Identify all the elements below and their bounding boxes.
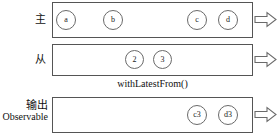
row-label-output: 输出 Observable [0, 100, 48, 122]
row-label-secondary-cjk: 从 [0, 54, 46, 66]
arrow-right-icon-output [254, 106, 277, 123]
marble-output-d3[interactable]: d3 [218, 105, 238, 125]
row-label-output-cjk: 输出 [0, 100, 48, 112]
marble-primary-c[interactable]: c [187, 10, 207, 30]
marble-diagram-canvas: 主 a b c d 从 2 3 withLatestFrom() 输出 Obse… [0, 0, 278, 140]
arrow-right-icon-primary [254, 11, 277, 28]
marble-label: c [195, 16, 199, 24]
marble-label: a [64, 16, 68, 24]
marble-label: b [111, 16, 115, 24]
marble-label: d3 [224, 111, 232, 119]
operator-caption: withLatestFrom() [52, 78, 253, 89]
marble-primary-d[interactable]: d [218, 10, 238, 30]
marble-primary-b[interactable]: b [103, 10, 123, 30]
row-label-primary: 主 [0, 14, 46, 26]
marble-label: c3 [193, 111, 201, 119]
marble-secondary-2[interactable]: 2 [125, 50, 144, 69]
arrow-right-icon-secondary [254, 51, 277, 68]
marble-primary-a[interactable]: a [56, 10, 76, 30]
row-label-primary-cjk: 主 [0, 14, 46, 26]
marble-output-c3[interactable]: c3 [187, 105, 207, 125]
marble-label: 2 [133, 56, 137, 64]
marble-label: 3 [161, 56, 165, 64]
marble-label: d [226, 16, 230, 24]
row-label-output-latin: Observable [0, 112, 48, 123]
marble-secondary-3[interactable]: 3 [153, 50, 172, 69]
row-label-secondary: 从 [0, 54, 46, 66]
